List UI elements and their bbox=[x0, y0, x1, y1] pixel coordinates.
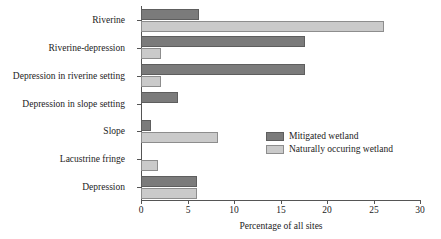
x-axis-tick bbox=[234, 200, 235, 204]
bar-mitigated bbox=[141, 176, 197, 187]
bar-natural bbox=[141, 76, 161, 87]
legend-item: Mitigated wetland bbox=[266, 130, 393, 143]
bar-natural bbox=[141, 21, 384, 32]
bar-natural bbox=[141, 48, 161, 59]
bar-mitigated bbox=[141, 9, 199, 20]
legend-swatch-natural bbox=[266, 145, 284, 154]
x-axis-tick bbox=[188, 200, 189, 204]
chart-legend: Mitigated wetlandNaturally occuring wetl… bbox=[266, 130, 393, 156]
y-axis-label: Riverine bbox=[92, 15, 125, 25]
x-axis-title: Percentage of all sites bbox=[141, 221, 421, 231]
y-axis-label: Depression bbox=[82, 182, 125, 192]
x-axis-tick bbox=[141, 200, 142, 204]
x-axis-tick-label: 25 bbox=[359, 205, 389, 216]
x-axis-tick-label: 5 bbox=[173, 205, 203, 216]
y-axis-label: Depression in slope setting bbox=[22, 99, 125, 109]
bar-natural bbox=[141, 160, 158, 171]
legend-item: Naturally occuring wetland bbox=[266, 143, 393, 156]
bar-natural bbox=[141, 188, 197, 199]
x-axis-tick-label: 10 bbox=[219, 205, 249, 216]
x-axis-tick bbox=[374, 200, 375, 204]
y-axis-label: Riverine-depression bbox=[48, 43, 125, 53]
y-axis-tick bbox=[137, 104, 141, 105]
legend-label: Mitigated wetland bbox=[289, 130, 358, 143]
x-axis-tick bbox=[327, 200, 328, 204]
bar-mitigated bbox=[141, 36, 305, 47]
bar-mitigated bbox=[141, 120, 151, 131]
x-axis-tick-label: 0 bbox=[126, 205, 156, 216]
x-axis-tick bbox=[281, 200, 282, 204]
bar-mitigated bbox=[141, 92, 178, 103]
x-axis-tick-label: 15 bbox=[266, 205, 296, 216]
bar-chart: RiverineRiverine-depressionDepression in… bbox=[0, 0, 441, 239]
bar-mitigated bbox=[141, 64, 305, 75]
y-axis-label: Depression in riverine setting bbox=[13, 71, 125, 81]
x-axis-tick-label: 30 bbox=[405, 205, 435, 216]
y-axis-line bbox=[141, 6, 142, 201]
legend-swatch-mitigated bbox=[266, 132, 284, 141]
x-axis-tick bbox=[420, 200, 421, 204]
x-axis-tick-label: 20 bbox=[312, 205, 342, 216]
legend-label: Naturally occuring wetland bbox=[289, 143, 393, 156]
y-axis-label: Lacustrine fringe bbox=[60, 154, 125, 164]
y-axis-label: Slope bbox=[103, 126, 125, 136]
bar-natural bbox=[141, 132, 218, 143]
